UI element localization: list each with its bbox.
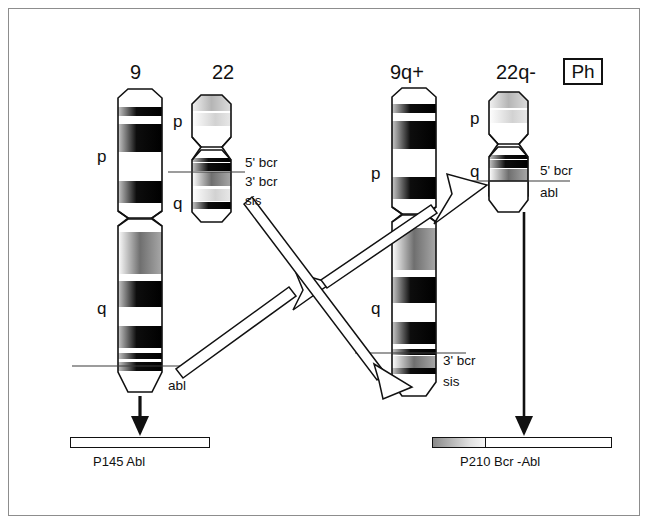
chr22qminus-bcr5-label: 5' bcr: [540, 164, 573, 178]
chr22-q-label: q: [173, 195, 182, 212]
protein-label-p210: P210 Bcr -Abl: [460, 455, 540, 468]
chr22qminus-p-label: p: [470, 110, 479, 127]
chr22-title: 22: [212, 62, 234, 82]
chr9qplus-p-label: p: [371, 165, 380, 182]
chr22qminus-title: 22q-: [496, 62, 536, 82]
chromosome-22q-minus-ph: [455, 92, 570, 436]
chr22qminus-q-label: q: [470, 163, 479, 180]
protein-bar-p210-bcr-segment: [433, 438, 486, 447]
protein-bar-p145: [70, 437, 210, 448]
chr9-abl-label: abl: [168, 379, 186, 393]
chr9qplus-sis-label: sis: [443, 375, 460, 389]
chr9qplus-bcr3-label: 3' bcr: [443, 354, 476, 368]
chromosome-9q-plus: [355, 88, 466, 397]
chr22-bcr5-label: 5' bcr: [245, 156, 278, 170]
protein-bar-p210: [432, 437, 612, 448]
chr22-p-label: p: [173, 113, 182, 130]
arrow-9-to-p145: [131, 396, 149, 436]
chr9-title: 9: [130, 62, 141, 82]
ph-badge: Ph: [563, 58, 603, 85]
chr9qplus-title: 9q+: [390, 62, 424, 82]
chr22-sis-label: sis: [245, 194, 262, 208]
chr9-q-label: q: [97, 300, 106, 317]
chr9qplus-q-label: q: [371, 300, 380, 317]
arrow-22q-to-p210: [515, 212, 533, 436]
protein-label-p145: P145 Abl: [93, 455, 145, 468]
chr9-p-label: p: [97, 148, 106, 165]
chr22-bcr3-label: 3' bcr: [245, 175, 278, 189]
figure-root: 9 p q abl 22 p q 5' bcr 3' bcr sis 9q+ p…: [0, 0, 652, 530]
diagram-vector-layer: [0, 0, 652, 530]
chr22qminus-abl-label: abl: [540, 186, 558, 200]
translocation-arrow-22-to-9q: [244, 197, 412, 399]
